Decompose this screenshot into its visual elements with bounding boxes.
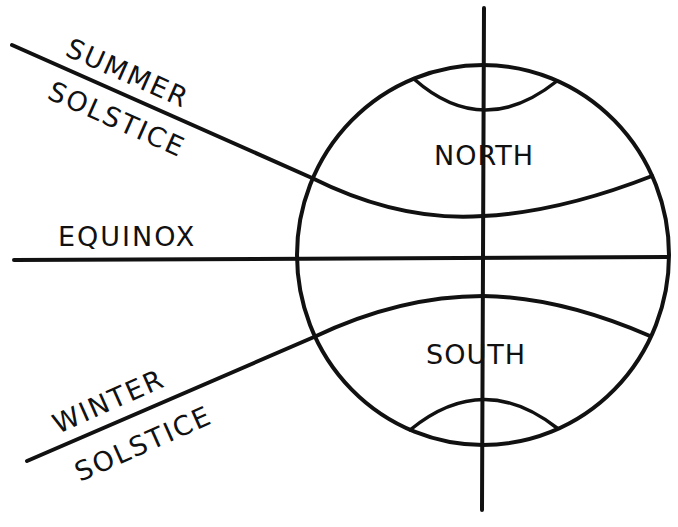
solstice-diagram: SUMMER SOLSTICE EQUINOX WINTER SOLSTICE … — [0, 0, 678, 527]
south-label: SOUTH — [426, 339, 526, 370]
equinox-line — [14, 257, 668, 260]
north-label: NORTH — [434, 140, 534, 171]
equinox-label: EQUINOX — [58, 221, 196, 252]
